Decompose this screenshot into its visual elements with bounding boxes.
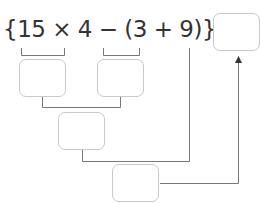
bracket-3plus9 [104, 48, 140, 56]
connector-lines [0, 0, 260, 203]
arrow-up-icon [235, 56, 242, 63]
line-divisor [83, 48, 190, 162]
bracket-subtract [43, 97, 121, 108]
line-to-answer [160, 60, 239, 184]
bracket-15x4 [22, 48, 65, 56]
